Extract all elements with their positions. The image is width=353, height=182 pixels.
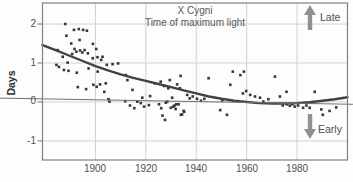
data-point [141, 96, 144, 99]
data-point [267, 98, 270, 101]
data-point [174, 108, 177, 111]
data-point [188, 97, 191, 100]
data-point [65, 34, 68, 37]
data-point [63, 69, 66, 72]
data-point [105, 82, 108, 85]
data-point [91, 57, 94, 60]
data-point [245, 90, 248, 93]
data-point [158, 103, 161, 106]
data-point [328, 110, 331, 113]
data-point [164, 119, 167, 122]
data-point [73, 48, 76, 51]
data-point [232, 70, 235, 73]
y-tick-label: 0 [8, 95, 36, 106]
data-point [96, 70, 99, 73]
chart-title: X Cygni [95, 5, 295, 17]
data-point [58, 66, 61, 69]
y-tick-label: -1 [8, 135, 36, 146]
data-point [243, 70, 246, 73]
data-point [99, 83, 102, 86]
data-point [149, 95, 152, 98]
data-point [285, 91, 288, 94]
data-point [78, 39, 81, 42]
data-point [207, 77, 210, 80]
data-point [171, 96, 174, 99]
data-point [96, 56, 99, 59]
data-point [226, 114, 229, 117]
data-point [111, 63, 114, 66]
data-point [294, 105, 297, 108]
data-point [100, 59, 103, 62]
data-point [95, 86, 98, 89]
data-point [129, 104, 132, 107]
data-point [320, 108, 323, 111]
data-point [86, 29, 89, 32]
data-point [148, 104, 151, 107]
data-point [239, 74, 242, 77]
data-point [55, 64, 58, 67]
x-tick-label: 1920 [124, 163, 168, 174]
data-point [92, 43, 95, 46]
data-point [175, 103, 178, 106]
data-point [81, 51, 84, 54]
data-point [87, 52, 90, 55]
data-point [82, 29, 85, 32]
x-tick-label: 1940 [174, 163, 218, 174]
data-point [308, 107, 311, 110]
data-point [279, 95, 282, 98]
data-point [106, 64, 109, 67]
data-point [289, 105, 292, 108]
data-point [161, 114, 164, 117]
light-curve-chart: X Cygni Time of maximum light Days 2 1 0… [0, 0, 353, 182]
data-point [159, 80, 162, 83]
late-annotation: Late [320, 11, 340, 23]
data-point [126, 79, 129, 82]
data-point [196, 98, 199, 101]
data-point [131, 89, 134, 92]
early-annotation: Early [318, 123, 342, 135]
data-point [143, 105, 146, 108]
data-point [219, 109, 222, 112]
data-point [87, 67, 90, 70]
data-point [322, 114, 325, 117]
data-point [242, 92, 245, 95]
data-point [302, 107, 305, 110]
data-point [249, 94, 252, 97]
x-tick-label: 1900 [73, 163, 117, 174]
data-point [183, 110, 186, 113]
data-point [181, 113, 184, 116]
data-point [64, 23, 67, 26]
data-point [101, 56, 104, 59]
data-point [160, 107, 163, 110]
data-point [71, 53, 74, 56]
data-point [177, 103, 180, 106]
data-point [77, 86, 80, 89]
x-tick-label: 1960 [225, 163, 269, 174]
data-point [169, 79, 172, 82]
y-tick-label: 2 [8, 18, 36, 29]
data-point [170, 107, 173, 110]
data-point [108, 100, 111, 103]
data-point [103, 91, 106, 94]
data-point [176, 83, 179, 86]
data-point [78, 28, 81, 31]
data-point [133, 107, 136, 110]
data-point [335, 106, 338, 109]
data-point [297, 104, 300, 107]
data-point [73, 29, 76, 32]
y-tick-label: 1 [8, 57, 36, 68]
data-point [140, 102, 143, 105]
data-point [305, 104, 308, 107]
chart-subtitle: Time of maximum light [95, 17, 295, 29]
data-point [274, 75, 277, 78]
late-up-arrow-icon [303, 5, 317, 31]
data-point [186, 94, 189, 97]
data-point [70, 42, 73, 45]
data-point [61, 56, 64, 59]
data-point [67, 70, 70, 73]
data-point [254, 95, 257, 98]
data-point [191, 95, 194, 98]
data-point [85, 88, 88, 91]
data-point [117, 62, 120, 65]
data-point [75, 50, 78, 53]
